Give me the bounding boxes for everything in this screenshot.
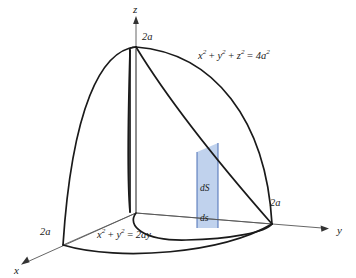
sphere-eq-z-exponent: 2 (241, 48, 245, 56)
sphere-eq-equals: = (247, 50, 253, 61)
surface-element-label: dS (200, 184, 210, 194)
sphere-equation-label: x2 + y2 + z2 = 4a2 (198, 49, 270, 61)
viviani-solid-figure (0, 0, 356, 278)
y-axis-label: y (337, 225, 342, 236)
z-axis-arrowhead (133, 16, 139, 24)
sphere-left-silhouette (63, 47, 136, 245)
cylinder-top-arc (130, 47, 136, 51)
sphere-outline (63, 47, 272, 254)
cyl-eq-equals: = (127, 229, 133, 240)
sphere-eq-rhs: 4a (256, 50, 267, 61)
x-axis-arrowhead (21, 256, 30, 264)
z-axis-tick-label: 2a (142, 32, 153, 43)
sphere-eq-plus-2: + (228, 50, 234, 61)
y-axis-tick-label: 2a (270, 198, 281, 209)
z-axis-label: z (133, 4, 137, 15)
x-axis-tick-label: 2a (40, 227, 51, 238)
sphere-eq-rhs-exponent: 2 (266, 48, 270, 56)
y-axis-arrowhead (321, 225, 329, 231)
cylinder-equation-label: x2 + y2 = 2ay (97, 228, 151, 240)
sphere-eq-plus-1: + (209, 50, 215, 61)
sphere-eq-y-exponent: 2 (222, 48, 226, 56)
cyl-eq-plus-1: + (108, 229, 114, 240)
cyl-eq-rhs: 2ay (136, 229, 151, 240)
x-axis-label: x (14, 265, 19, 276)
cyl-eq-y-exponent: 2 (121, 227, 125, 235)
arc-element-label: ds (200, 214, 208, 224)
sphere-eq-x-exponent: 2 (203, 48, 207, 56)
axis-lines (21, 16, 329, 265)
cyl-eq-x-exponent: 2 (102, 227, 106, 235)
